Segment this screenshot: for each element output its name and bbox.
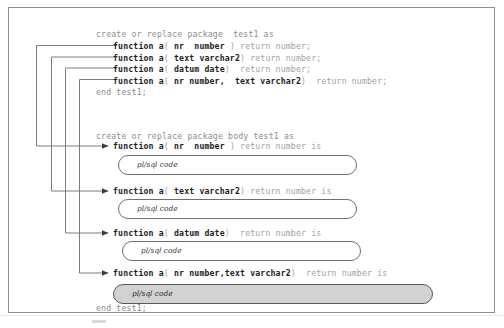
spec-decl-3-params: datum date (174, 64, 225, 74)
body-impl-3-params: datum date (174, 228, 225, 238)
spec-decl-1-open-paren: ( (164, 41, 169, 51)
body-footer: end test1; (96, 303, 147, 315)
spec-decl-2-open-paren: ( (164, 53, 169, 63)
spec-declaration-1: function a( nr number ) return number; (113, 41, 311, 53)
plsql-code-box-3: pl/sql code (122, 241, 361, 261)
body-impl-3-prefix: function a (113, 228, 164, 238)
spec-decl-4-close-paren: ) (301, 76, 306, 86)
spec-declaration-4: function a( nr number, text varchar2) re… (113, 76, 387, 88)
body-impl-4-prefix: function a (113, 268, 164, 278)
plsql-code-box-2: pl/sql code (118, 199, 357, 219)
body-impl-4-suffix: return number is (301, 268, 387, 278)
spec-decl-4-params: nr number, text varchar2 (174, 76, 301, 86)
spec-decl-3-prefix: function a (113, 64, 164, 74)
spec-decl-2-params: text varchar2 (174, 53, 240, 63)
body-implementation-3: function a( datum date) return number is (113, 228, 321, 240)
spec-decl-2-close-paren: ) (240, 53, 245, 63)
body-implementation-4: function a( nr number,text varchar2) ret… (113, 268, 387, 280)
spec-decl-3-close-paren: ) (225, 64, 230, 74)
body-impl-1-suffix: return number is (240, 141, 321, 151)
body-impl-1-open-paren: ( (164, 141, 169, 151)
spec-decl-3-open-paren: ( (164, 64, 169, 74)
spec-decl-3-suffix: return number; (235, 64, 311, 74)
body-impl-1-params: nr number (174, 141, 225, 151)
body-impl-2-prefix: function a (113, 186, 164, 196)
body-impl-4-params: nr number,text varchar2 (174, 268, 291, 278)
body-impl-4-open-paren: ( (164, 268, 169, 278)
plsql-code-label-1: pl/sql code (137, 160, 178, 169)
spec-decl-2-suffix: return number; (250, 53, 321, 63)
plsql-code-label-2: pl/sql code (137, 204, 178, 213)
plsql-code-label-3: pl/sql code (141, 246, 182, 255)
spec-decl-4-prefix: function a (113, 76, 164, 86)
body-impl-2-close-paren: ) (240, 186, 245, 196)
body-implementation-2: function a( text varchar2) return number… (113, 186, 331, 198)
spec-decl-4-suffix: return number; (311, 76, 387, 86)
body-impl-3-suffix: return number is (235, 228, 321, 238)
plsql-code-label-4: pl/sql code (132, 289, 173, 298)
body-impl-3-close-paren: ) (225, 228, 230, 238)
body-implementation-1: function a( nr number ) return number is (113, 141, 321, 153)
body-impl-3-open-paren: ( (164, 228, 169, 238)
spec-header: create or replace package test1 as (96, 29, 274, 41)
body-impl-4-close-paren: ) (291, 268, 296, 278)
scan-artifact-line (0, 315, 504, 316)
spec-declaration-3: function a( datum date) return number; (113, 64, 311, 76)
spec-decl-1-params: nr number (174, 41, 225, 51)
spec-decl-4-open-paren: ( (164, 76, 169, 86)
spec-declaration-2: function a( text varchar2) return number… (113, 53, 321, 65)
body-impl-1-prefix: function a (113, 141, 164, 151)
plsql-code-box-1: pl/sql code (118, 155, 357, 175)
spec-footer: end test1; (96, 87, 147, 99)
scan-artifact-mark (92, 320, 106, 323)
spec-decl-1-suffix: return number; (240, 41, 311, 51)
body-impl-2-open-paren: ( (164, 186, 169, 196)
figure-canvas: create or replace package test1 as funct… (0, 0, 504, 328)
plsql-code-box-4: pl/sql code (113, 284, 433, 304)
body-impl-2-params: text varchar2 (174, 186, 240, 196)
body-impl-2-suffix: return number is (250, 186, 331, 196)
spec-decl-1-close-paren: ) (230, 41, 235, 51)
spec-decl-2-prefix: function a (113, 53, 164, 63)
spec-decl-1-prefix: function a (113, 41, 164, 51)
body-impl-1-close-paren: ) (230, 141, 235, 151)
